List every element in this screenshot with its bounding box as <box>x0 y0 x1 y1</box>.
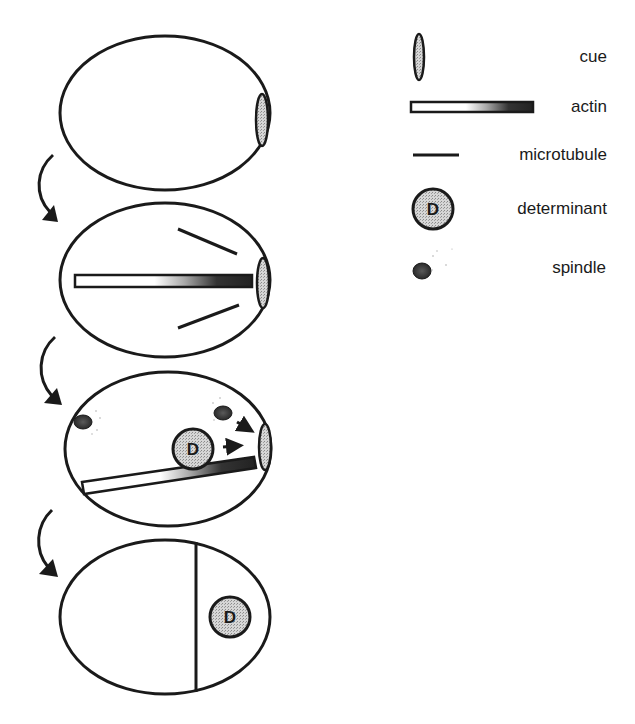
actin-icon <box>411 102 533 112</box>
cue-icon <box>414 34 424 80</box>
movement-arrow-icon <box>237 422 247 428</box>
determinant-icon: D <box>413 189 453 229</box>
spindle-halo <box>91 410 100 434</box>
stage-3-cell: D <box>65 372 271 526</box>
movement-arrow-icon <box>223 446 235 447</box>
spindle-icon <box>413 263 431 279</box>
arrowhead-icon <box>42 205 58 222</box>
legend-label-microtubule: microtubule <box>519 145 607 164</box>
cue-icon <box>257 258 269 308</box>
determinant-glyph: D <box>224 608 236 627</box>
legend-label-actin: actin <box>571 97 607 116</box>
spindle-icon <box>74 415 92 429</box>
microtubule-icon <box>178 305 239 328</box>
cue-icon <box>259 424 271 470</box>
cell-polarity-diagram: D D cue actin microtubule <box>0 0 635 724</box>
legend-item-determinant: D determinant <box>413 189 607 229</box>
actin-icon <box>82 457 256 494</box>
microtubule-icon <box>178 229 237 254</box>
determinant-glyph: D <box>427 200 439 219</box>
cell-membrane <box>60 36 270 190</box>
legend-item-microtubule: microtubule <box>413 145 607 164</box>
cell-membrane <box>65 372 271 526</box>
cue-icon <box>256 94 268 146</box>
stage-4-cell: D <box>60 540 270 694</box>
arrowhead-icon <box>39 559 58 577</box>
transition-arrow-1 <box>39 155 58 222</box>
determinant-glyph: D <box>187 440 199 459</box>
transition-arrow-2 <box>41 337 62 405</box>
legend-item-cue: cue <box>414 34 607 80</box>
legend-item-actin: actin <box>411 97 607 116</box>
curved-arrow-icon <box>39 510 52 567</box>
stage-2-cell <box>60 203 270 357</box>
determinant-icon: D <box>173 429 213 469</box>
legend-label-cue: cue <box>580 47 607 66</box>
transition-arrow-3 <box>39 510 58 577</box>
spindle-icon <box>214 406 232 420</box>
determinant-icon: D <box>210 597 250 637</box>
legend-item-spindle: spindle <box>413 248 606 279</box>
stage-1-cell <box>60 36 270 190</box>
legend-label-spindle: spindle <box>552 258 606 277</box>
legend-label-determinant: determinant <box>517 199 607 218</box>
actin-icon <box>75 275 252 287</box>
curved-arrow-icon <box>39 155 53 212</box>
spindle-halo <box>431 248 452 270</box>
curved-arrow-icon <box>41 337 55 396</box>
legend: cue actin microtubule D determinant spin… <box>411 34 607 279</box>
